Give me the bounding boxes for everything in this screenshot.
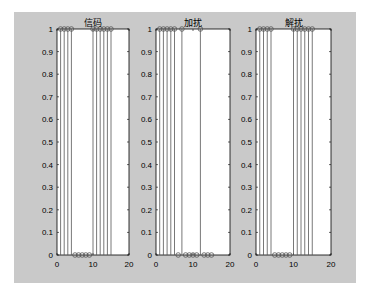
y-tick-label: 0.6 <box>141 115 153 124</box>
y-tick-label: 0 <box>148 251 153 260</box>
x-tick-label: 20 <box>125 260 134 269</box>
y-tick-label: 0.8 <box>141 70 153 79</box>
y-tick-label: 1 <box>248 25 253 34</box>
y-tick-label: 0.5 <box>241 138 253 147</box>
x-tick-label: 20 <box>226 260 235 269</box>
y-tick-label: 0.6 <box>241 115 253 124</box>
y-tick-label: 0.1 <box>42 228 54 237</box>
subplot-3: 00.10.20.30.40.50.60.70.80.9101020解扰 <box>241 17 336 269</box>
y-tick-label: 0.8 <box>42 70 54 79</box>
y-tick-label: 0.9 <box>42 48 54 57</box>
y-tick-label: 0.4 <box>241 161 253 170</box>
subplot-title: 信码 <box>84 17 102 28</box>
y-tick-label: 0.6 <box>42 115 54 124</box>
y-tick-label: 0.2 <box>241 206 253 215</box>
x-tick-label: 20 <box>327 260 336 269</box>
subplot-title: 加扰 <box>184 17 202 28</box>
y-tick-label: 0.4 <box>141 161 153 170</box>
subplot-1: 00.10.20.30.40.50.60.70.80.9101020信码 <box>42 17 134 269</box>
y-tick-label: 0.7 <box>241 93 253 102</box>
y-tick-label: 0.3 <box>141 183 153 192</box>
subplot-2: 00.10.20.30.40.50.60.70.80.9101020加扰 <box>141 17 235 269</box>
y-tick-label: 0.9 <box>141 48 153 57</box>
y-tick-label: 0.7 <box>141 93 153 102</box>
y-tick-label: 0.3 <box>241 183 253 192</box>
x-tick-label: 0 <box>154 260 159 269</box>
x-tick-label: 10 <box>89 260 98 269</box>
y-tick-label: 0.7 <box>42 93 54 102</box>
y-tick-label: 0.2 <box>42 206 54 215</box>
stem-plot-figure: 00.10.20.30.40.50.60.70.80.9101020信码00.1… <box>0 0 368 297</box>
x-tick-label: 10 <box>289 260 298 269</box>
y-tick-label: 0.4 <box>42 161 54 170</box>
y-tick-label: 1 <box>148 25 153 34</box>
y-tick-label: 1 <box>49 25 54 34</box>
x-tick-label: 0 <box>55 260 60 269</box>
x-tick-label: 0 <box>254 260 259 269</box>
x-tick-label: 10 <box>189 260 198 269</box>
y-tick-label: 0 <box>248 251 253 260</box>
y-tick-label: 0.3 <box>42 183 54 192</box>
y-tick-label: 0.5 <box>141 138 153 147</box>
y-tick-label: 0.9 <box>241 48 253 57</box>
y-tick-label: 0.8 <box>241 70 253 79</box>
y-tick-label: 0 <box>49 251 54 260</box>
y-tick-label: 0.5 <box>42 138 54 147</box>
y-tick-label: 0.1 <box>141 228 153 237</box>
subplot-title: 解扰 <box>285 17 303 28</box>
y-tick-label: 0.2 <box>141 206 153 215</box>
y-tick-label: 0.1 <box>241 228 253 237</box>
